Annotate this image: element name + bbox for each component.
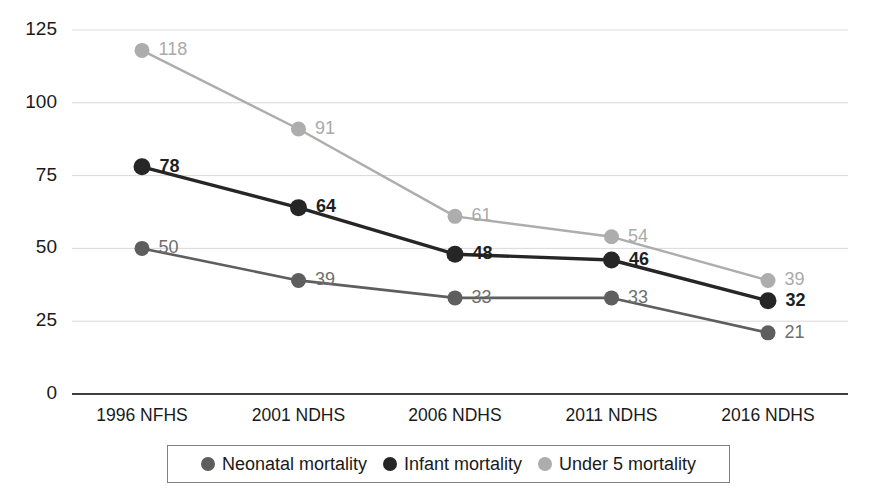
data-point-label: 39	[315, 269, 335, 289]
data-point-marker	[448, 209, 463, 224]
data-point-marker	[291, 273, 306, 288]
x-tick-label: 2011 NDHS	[565, 405, 657, 425]
legend-item-label: Infant mortality	[404, 454, 522, 475]
legend-item-label: Under 5 mortality	[559, 454, 696, 475]
data-point-marker	[135, 241, 150, 256]
data-point-label: 64	[316, 196, 336, 216]
y-tick-label: 25	[36, 309, 57, 330]
circle-marker-icon	[383, 457, 397, 471]
data-point-marker	[134, 158, 151, 175]
data-point-label: 54	[628, 226, 648, 246]
data-point-label: 33	[472, 287, 492, 307]
x-axis-tick-labels: 1996 NFHS2001 NDHS2006 NDHS2011 NDHS2016…	[96, 405, 814, 425]
data-point-label: 48	[473, 243, 493, 263]
data-point-marker	[604, 229, 619, 244]
data-point-label: 32	[786, 290, 806, 310]
data-point-marker	[761, 325, 776, 340]
data-point-marker	[447, 246, 464, 263]
data-point-marker	[135, 43, 150, 58]
data-point-label: 91	[315, 118, 335, 138]
y-tick-label: 125	[25, 18, 57, 39]
data-point-marker	[291, 122, 306, 137]
data-point-labels: 5039333321786448463211891615439	[159, 39, 806, 341]
data-point-label: 46	[629, 249, 649, 269]
legend-item[interactable]: Under 5 mortality	[538, 454, 696, 475]
mortality-trend-chart: 1251007550250 50393333217864484632118916…	[0, 0, 872, 502]
data-point-marker	[290, 199, 307, 216]
data-point-label: 39	[785, 269, 805, 289]
chart-plot-area: 1251007550250 50393333217864484632118916…	[0, 0, 872, 440]
legend-item[interactable]: Neonatal mortality	[201, 454, 367, 475]
circle-marker-icon	[538, 457, 552, 471]
legend-item[interactable]: Infant mortality	[383, 454, 522, 475]
chart-legend: Neonatal mortalityInfant mortalityUnder …	[167, 445, 730, 483]
data-point-label: 50	[159, 237, 179, 257]
data-point-marker	[603, 252, 620, 269]
data-point-marker	[604, 290, 619, 305]
data-point-label: 21	[785, 322, 805, 342]
data-point-label: 118	[159, 39, 188, 59]
data-point-marker	[761, 273, 776, 288]
x-tick-label: 2001 NDHS	[252, 405, 345, 425]
y-tick-label: 50	[36, 236, 57, 257]
data-point-label: 78	[160, 156, 180, 176]
data-point-label: 61	[472, 205, 492, 225]
data-point-marker	[448, 290, 463, 305]
circle-marker-icon	[201, 457, 215, 471]
x-tick-label: 1996 NFHS	[96, 405, 187, 425]
y-tick-label: 0	[46, 382, 57, 403]
y-tick-label: 100	[25, 91, 57, 112]
legend-item-label: Neonatal mortality	[222, 454, 367, 475]
y-axis-tick-labels: 1251007550250	[25, 18, 57, 403]
data-point-marker	[760, 292, 777, 309]
x-tick-label: 2016 NDHS	[721, 405, 814, 425]
series-points	[134, 43, 777, 340]
y-tick-label: 75	[36, 164, 57, 185]
data-point-label: 33	[628, 287, 648, 307]
series-line	[142, 167, 768, 301]
x-tick-label: 2006 NDHS	[408, 405, 501, 425]
